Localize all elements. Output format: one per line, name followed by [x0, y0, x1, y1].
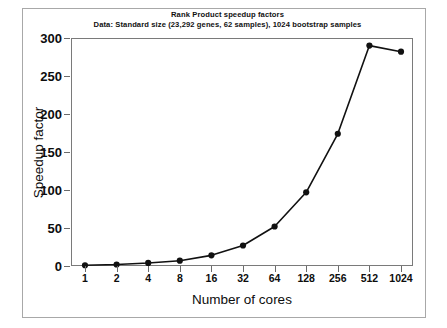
data-series-layer [71, 38, 413, 266]
chart-title: Rank Product speedup factors [40, 11, 415, 20]
speedup-markers [82, 43, 404, 269]
x-tick-label: 1024 [389, 272, 412, 284]
data-point [208, 252, 214, 258]
y-tick-mark [64, 228, 70, 229]
y-tick-mark [64, 114, 70, 115]
x-tick-mark [243, 266, 244, 272]
x-tick-mark [180, 266, 181, 272]
y-tick-mark [64, 152, 70, 153]
x-tick-label: 128 [297, 272, 315, 284]
y-tick-mark [64, 38, 70, 39]
data-point [398, 49, 404, 55]
x-tick-label: 64 [269, 272, 281, 284]
y-axis-title: Speedup factor [31, 53, 46, 253]
data-point [366, 43, 372, 49]
x-tick-mark [338, 266, 339, 272]
y-tick-label: 0 [55, 259, 62, 274]
x-tick-label: 16 [206, 272, 218, 284]
x-tick-mark [306, 266, 307, 272]
data-point [303, 189, 309, 195]
x-tick-label: 4 [145, 272, 151, 284]
data-point [240, 242, 246, 248]
x-tick-label: 256 [329, 272, 347, 284]
x-tick-mark [211, 266, 212, 272]
data-point [272, 223, 278, 229]
chart-subtitle: Data: Standard size (23,292 genes, 62 sa… [40, 21, 415, 30]
x-axis-title: Number of cores [71, 292, 413, 307]
title-block: Rank Product speedup factors Data: Stand… [40, 11, 415, 30]
x-tick-label: 32 [237, 272, 249, 284]
y-tick-mark [64, 76, 70, 77]
x-tick-mark [275, 266, 276, 272]
x-tick-mark [148, 266, 149, 272]
x-tick-mark [401, 266, 402, 272]
x-tick-mark [369, 266, 370, 272]
data-point [335, 131, 341, 137]
y-tick-label: 300 [40, 31, 62, 46]
y-tick-label: 50 [48, 221, 62, 236]
speedup-line [85, 46, 401, 266]
x-tick-mark [117, 266, 118, 272]
x-tick-label: 1 [82, 272, 88, 284]
x-tick-label: 512 [361, 272, 379, 284]
y-tick-mark [64, 266, 70, 267]
x-tick-label: 2 [114, 272, 120, 284]
x-tick-mark [85, 266, 86, 272]
data-point [177, 258, 183, 264]
y-tick-mark [64, 190, 70, 191]
chart-figure: Rank Product speedup factors Data: Stand… [0, 0, 447, 328]
x-tick-label: 8 [177, 272, 183, 284]
